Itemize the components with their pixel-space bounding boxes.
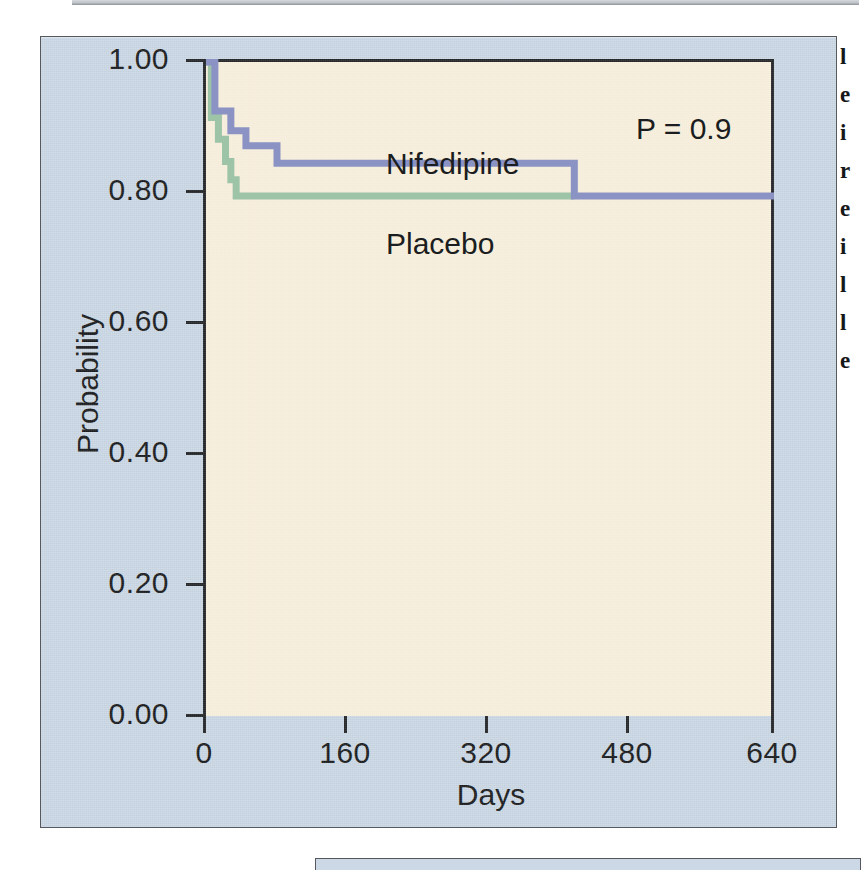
y-tick-0.20 [186,583,204,586]
y-tick-label-0.00: 0.00 [61,697,169,731]
figure-panel: 1.00 0.80 0.60 0.40 0.20 0.00 Probabilit… [40,36,837,828]
page-top-scan-strip [72,0,859,5]
y-tick-label-1.00: 1.00 [61,42,169,76]
side-text-line: i [840,114,859,152]
x-tick-label-0: 0 [159,736,249,770]
x-tick-label-320: 320 [441,736,531,770]
y-tick-0.00 [186,714,204,717]
series-label-placebo: Placebo [386,227,494,261]
y-tick-0.40 [186,452,204,455]
y-tick-0.80 [186,190,204,193]
side-text-line: l [840,38,859,76]
side-text-line: e [840,190,859,228]
lower-figure-panel [315,858,861,870]
series-label-nifedipine: Nifedipine [386,147,519,181]
side-text-line: i [840,228,859,266]
x-tick-label-480: 480 [582,736,672,770]
y-tick-0.60 [186,321,204,324]
side-text-line: e [840,342,859,368]
side-text-line: l [840,304,859,342]
body-text-column-clipped: l e i r e i l l e [840,38,859,368]
x-tick-label-160: 160 [300,736,390,770]
y-tick-label-0.80: 0.80 [61,173,169,207]
y-axis-label: Probability [71,274,105,494]
y-tick-1.00 [186,59,204,62]
side-text-line: e [840,76,859,114]
y-tick-label-0.20: 0.20 [61,566,169,600]
x-tick-label-640: 640 [727,736,817,770]
p-value-annotation: P = 0.9 [636,112,731,146]
side-text-line: r [840,152,859,190]
x-axis-label: Days [341,778,641,812]
side-text-line: l [840,266,859,304]
